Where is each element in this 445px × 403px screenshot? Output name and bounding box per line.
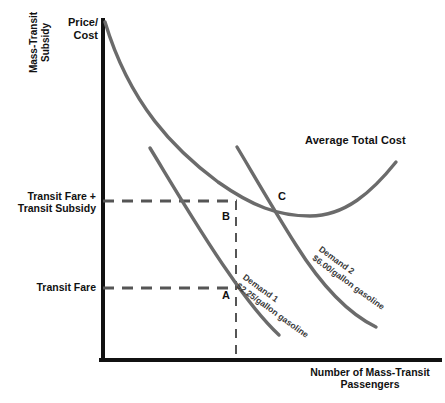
y-axis-label: Price/ Cost xyxy=(0,16,98,42)
point-label-a: A xyxy=(222,289,230,301)
average-total-cost-curve xyxy=(105,22,396,216)
label-transit-fare-plus-subsidy: Transit Fare + Transit Subsidy xyxy=(0,190,96,215)
point-label-b: B xyxy=(222,210,230,222)
economics-diagram: Price/ Cost Number of Mass-Transit Passe… xyxy=(0,0,445,403)
label-average-total-cost: Average Total Cost xyxy=(305,134,406,147)
x-axis-label: Number of Mass-Transit Passengers xyxy=(300,366,440,391)
point-label-c: C xyxy=(278,190,286,202)
label-transit-fare: Transit Fare xyxy=(0,281,96,293)
